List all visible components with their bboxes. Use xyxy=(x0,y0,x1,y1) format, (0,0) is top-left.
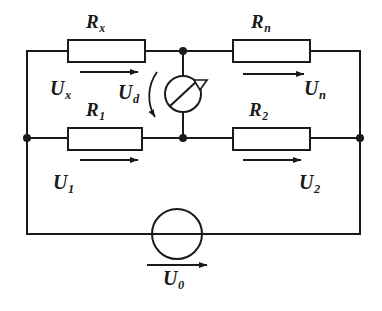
label-resistor-rn: Rn xyxy=(251,12,271,31)
resistor-box-r2 xyxy=(233,128,310,150)
label-voltage-u2: U2 xyxy=(299,172,320,192)
resistor-box-rn xyxy=(233,40,310,62)
node-dot-middle-center xyxy=(179,134,187,142)
node-dot-top-center xyxy=(179,47,187,55)
resistor-box-r1 xyxy=(68,128,142,150)
label-voltage-ux: Ux xyxy=(50,78,71,98)
label-voltage-u1: U1 xyxy=(53,172,74,192)
circuit-schematic-svg xyxy=(0,0,382,311)
label-resistor-r2: R2 xyxy=(249,100,268,119)
label-voltage-un: Un xyxy=(304,78,326,98)
label-voltage-ud: Ud xyxy=(118,82,139,102)
node-dot-middle-right xyxy=(356,134,364,142)
label-resistor-rx: Rx xyxy=(86,12,105,31)
label-voltage-u0: U0 xyxy=(163,268,184,288)
resistor-box-rx xyxy=(68,40,145,62)
arrow-ud-curved xyxy=(149,72,157,117)
label-resistor-r1: R1 xyxy=(86,100,105,119)
circuit-diagram: Rx Rn R1 R2 Ux Ud Un U1 U2 U0 xyxy=(0,0,382,311)
node-dot-middle-left xyxy=(23,134,31,142)
